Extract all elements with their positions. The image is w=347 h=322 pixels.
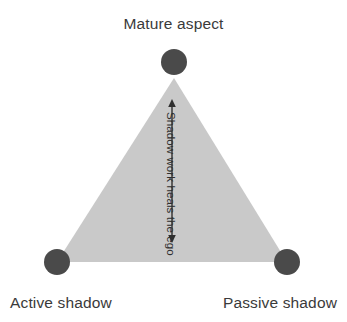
label-active-shadow: Active shadow [10,294,112,312]
node-mature-aspect[interactable] [161,49,187,75]
label-passive-shadow: Passive shadow [223,294,337,312]
node-active-shadow[interactable] [44,249,70,275]
node-passive-shadow[interactable] [274,249,300,275]
diagram-root: Mature aspect Shadow work heals the ego … [0,0,347,322]
arrow-caption-label: Shadow work heals the ego [165,112,177,256]
